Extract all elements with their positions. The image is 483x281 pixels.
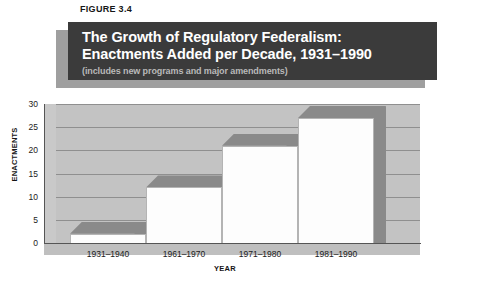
x-axis-tick-label: 1931–1940 — [66, 249, 150, 259]
x-axis-tick-label: 1971–1980 — [218, 249, 302, 259]
x-axis-title: YEAR — [0, 264, 450, 273]
x-axis-tick-label: 1981–1990 — [294, 249, 378, 259]
y-axis-title: ENACTMENTS — [10, 120, 19, 190]
y-axis-tick-label: 0 — [8, 238, 38, 248]
y-axis-ticks: 051015202530 — [0, 0, 483, 281]
y-axis-tick-label: 30 — [8, 99, 38, 109]
y-axis-tick-label: 5 — [8, 215, 38, 225]
figure-container: FIGURE 3.4 The Growth of Regulatory Fede… — [0, 0, 483, 281]
x-axis-tick-label: 1961–1970 — [142, 249, 226, 259]
y-axis-tick-label: 10 — [8, 192, 38, 202]
